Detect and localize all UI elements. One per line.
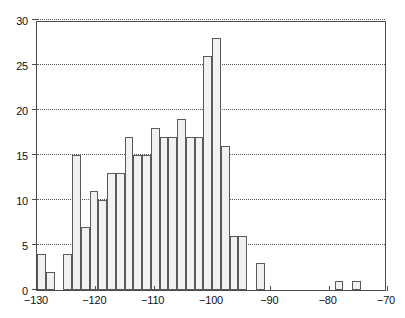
x-tick-label: −70 [377, 294, 395, 306]
histogram-bar [203, 56, 212, 290]
histogram-bar [72, 155, 81, 290]
y-tick-label: 0 [4, 285, 28, 297]
histogram-bar [221, 146, 230, 290]
y-tick-label: 10 [4, 195, 28, 207]
plot-inner [37, 22, 385, 290]
y-tick-label: 5 [4, 240, 28, 252]
histogram-bar [151, 128, 160, 290]
histogram-bar [116, 173, 125, 290]
x-tick--110 [154, 286, 155, 291]
gridline-y-30 [37, 19, 385, 20]
plot-area [36, 21, 386, 291]
x-tick--120 [95, 286, 96, 291]
y-tick-5 [32, 244, 37, 245]
histogram-bar [186, 137, 195, 290]
y-tick-30 [32, 19, 37, 20]
histogram-bar [177, 119, 186, 290]
histogram-bar [107, 173, 116, 290]
histogram-bar [335, 281, 344, 290]
histogram-bar [133, 155, 142, 290]
y-tick-label: 30 [4, 15, 28, 27]
x-tick--70 [387, 286, 388, 291]
y-tick-20 [32, 109, 37, 110]
histogram-bar [168, 137, 177, 290]
histogram-bar [195, 137, 204, 290]
y-tick-10 [32, 199, 37, 200]
x-tick-label: −100 [199, 294, 223, 306]
y-tick-label: 15 [4, 150, 28, 162]
y-tick-15 [32, 154, 37, 155]
x-tick--80 [329, 286, 330, 291]
x-tick-label: −90 [260, 294, 278, 306]
histogram-bar [160, 137, 169, 290]
x-tick--90 [270, 286, 271, 291]
histogram-bar [46, 272, 55, 290]
x-tick--130 [37, 286, 38, 291]
histogram-bar [90, 191, 99, 290]
histogram-bar [142, 155, 151, 290]
y-tick-0 [32, 289, 37, 290]
histogram-figure: −130−120−110−100−90−80−70 051015202530 [0, 0, 405, 318]
histogram-bar [63, 254, 72, 290]
x-tick--100 [212, 286, 213, 291]
histogram-bar [98, 200, 107, 290]
y-tick-25 [32, 64, 37, 65]
x-tick-label: −80 [319, 294, 337, 306]
x-tick-label: −110 [141, 294, 164, 306]
histogram-bar [212, 38, 221, 290]
bars-group [37, 22, 385, 290]
y-tick-label: 20 [4, 105, 28, 117]
histogram-bar [238, 236, 247, 290]
histogram-bar [81, 227, 90, 290]
histogram-bar [230, 236, 239, 290]
histogram-bar [256, 263, 265, 290]
x-tick-label: −120 [82, 294, 106, 306]
histogram-bar [37, 254, 46, 290]
histogram-bar [352, 281, 361, 290]
y-tick-label: 25 [4, 60, 28, 72]
histogram-bar [125, 137, 134, 290]
